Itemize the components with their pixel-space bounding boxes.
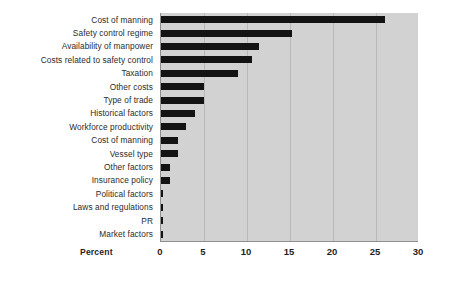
bar-row xyxy=(161,40,418,53)
bar xyxy=(161,97,204,104)
category-tick: Type of trade xyxy=(0,93,158,106)
category-label: Costs related to safety control xyxy=(41,56,153,64)
bar-row xyxy=(161,187,418,200)
bar xyxy=(161,30,292,37)
bar-row xyxy=(161,228,418,241)
category-label: Workforce productivity xyxy=(69,123,153,131)
category-tick: Workforce productivity xyxy=(0,120,158,133)
category-axis: Cost of manning Safety control regime Av… xyxy=(0,13,158,241)
x-tick-label: 15 xyxy=(284,246,295,257)
category-label: Other costs xyxy=(110,83,153,91)
x-tick-label: 5 xyxy=(200,246,205,257)
x-tick-label: 20 xyxy=(327,246,338,257)
bar xyxy=(161,190,163,197)
bar-row xyxy=(161,13,418,26)
horizontal-bar-chart: Cost of manning Safety control regime Av… xyxy=(0,0,465,282)
category-label: Taxation xyxy=(121,69,153,77)
bar-row xyxy=(161,53,418,66)
bar-row xyxy=(161,93,418,106)
category-tick: Costs related to safety control xyxy=(0,53,158,66)
bar xyxy=(161,177,170,184)
category-tick: Political factors xyxy=(0,187,158,200)
plot-area xyxy=(160,13,418,241)
bar-row xyxy=(161,120,418,133)
bar xyxy=(161,43,259,50)
category-tick: Vessel type xyxy=(0,147,158,160)
x-tick-label: 0 xyxy=(157,246,162,257)
category-label: Insurance policy xyxy=(92,176,153,184)
bar-row xyxy=(161,174,418,187)
bar-row xyxy=(161,80,418,93)
bar xyxy=(161,70,238,77)
bar xyxy=(161,83,204,90)
category-label: Laws and regulations xyxy=(73,203,153,211)
category-tick: Taxation xyxy=(0,67,158,80)
bar xyxy=(161,110,195,117)
bar-row xyxy=(161,134,418,147)
bar xyxy=(161,231,163,238)
category-label: Vessel type xyxy=(110,150,153,158)
category-tick: Laws and regulations xyxy=(0,201,158,214)
category-label: Type of trade xyxy=(103,96,153,104)
category-label: Other factors xyxy=(104,163,153,171)
category-label: Cost of manning xyxy=(91,136,153,144)
category-tick: Insurance policy xyxy=(0,174,158,187)
category-tick: Cost of manning xyxy=(0,134,158,147)
bar xyxy=(161,137,178,144)
bar-row xyxy=(161,147,418,160)
bar xyxy=(161,16,385,23)
category-label: Political factors xyxy=(96,190,153,198)
x-axis-line xyxy=(160,241,418,242)
x-tick-label: 25 xyxy=(370,246,381,257)
category-label: PR xyxy=(141,217,153,225)
x-tick-label: 10 xyxy=(241,246,252,257)
category-label: Safety control regime xyxy=(73,29,153,37)
category-tick: Safety control regime xyxy=(0,26,158,39)
bar-row xyxy=(161,67,418,80)
bar xyxy=(161,164,170,171)
bar-row xyxy=(161,107,418,120)
category-tick: Availability of manpower xyxy=(0,40,158,53)
bars-layer xyxy=(161,13,418,241)
x-axis-tick-labels: 051015202530 xyxy=(0,246,465,262)
category-tick: Historical factors xyxy=(0,107,158,120)
category-tick: Other costs xyxy=(0,80,158,93)
bar xyxy=(161,123,186,130)
category-label: Historical factors xyxy=(90,109,153,117)
category-label: Cost of manning xyxy=(91,16,153,24)
bar-row xyxy=(161,214,418,227)
x-axis-title: Percent xyxy=(80,247,113,257)
category-tick: PR xyxy=(0,214,158,227)
category-tick: Cost of manning xyxy=(0,13,158,26)
bar-row xyxy=(161,26,418,39)
bar-row xyxy=(161,160,418,173)
x-tick-label: 30 xyxy=(413,246,424,257)
category-label: Market factors xyxy=(99,230,153,238)
category-label: Availability of manpower xyxy=(62,42,153,50)
bar xyxy=(161,204,163,211)
category-tick: Market factors xyxy=(0,228,158,241)
bar xyxy=(161,56,252,63)
bar xyxy=(161,217,163,224)
bar-row xyxy=(161,201,418,214)
category-tick: Other factors xyxy=(0,160,158,173)
bar xyxy=(161,150,178,157)
